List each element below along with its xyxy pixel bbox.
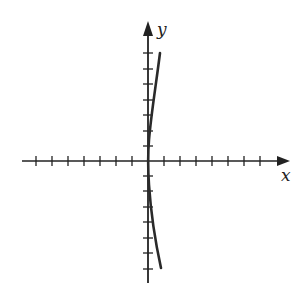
graph: y x xyxy=(0,0,304,293)
x-axis-label: x xyxy=(281,165,291,185)
y-axis-label: y xyxy=(156,19,167,39)
y-axis-arrow-icon xyxy=(143,21,153,36)
